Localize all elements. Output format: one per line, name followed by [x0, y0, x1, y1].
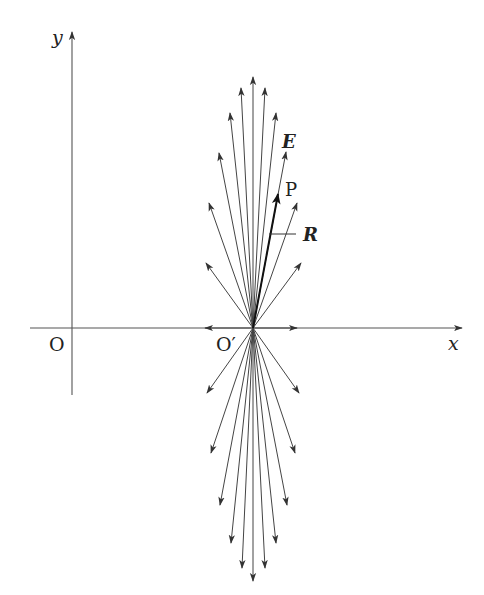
- field-diagram: [0, 0, 484, 595]
- field-lines: [205, 77, 301, 581]
- field-line: [253, 328, 287, 505]
- x-axis-label: x: [448, 334, 459, 353]
- charge-origin-label: O′: [216, 335, 236, 354]
- field-line: [253, 263, 301, 328]
- field-line: [206, 263, 253, 328]
- field-line: [253, 328, 276, 543]
- field-line: [253, 328, 265, 568]
- radius-label-R: R: [303, 226, 318, 244]
- field-line: [241, 88, 253, 328]
- point-label-P: P: [285, 181, 297, 199]
- field-label-E: E: [282, 133, 296, 151]
- origin-label: O: [49, 335, 65, 354]
- y-axis-label: y: [52, 28, 63, 47]
- field-line: [253, 328, 299, 393]
- field-line: [219, 153, 253, 328]
- field-line: [242, 328, 253, 568]
